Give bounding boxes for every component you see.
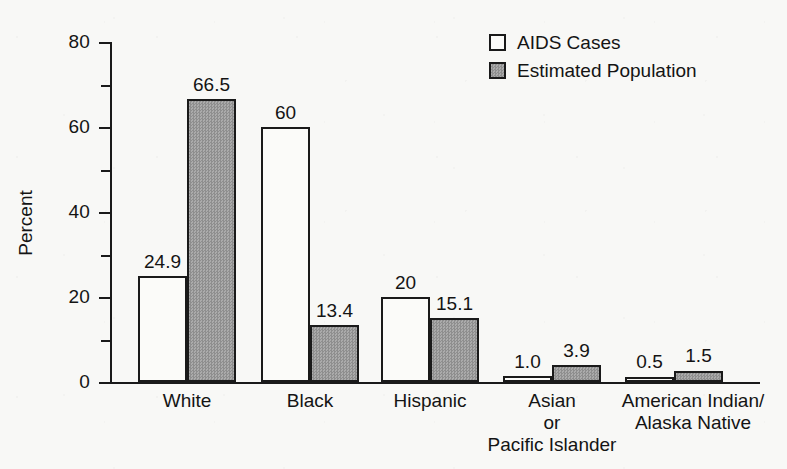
x-axis-label-black: Black — [240, 390, 380, 412]
y-tick-major-60 — [99, 127, 110, 129]
bar-hispanic-estimated-population — [430, 318, 479, 382]
y-tick-minor-50 — [101, 170, 110, 172]
bar-value-american-indian-estimated-population: 1.5 — [667, 346, 730, 365]
legend-label-estimated-population: Estimated Population — [517, 61, 697, 80]
legend-item-estimated-population: Estimated Population — [489, 56, 697, 84]
bar-value-hispanic-estimated-population: 15.1 — [421, 294, 488, 313]
bar-value-black-aids-cases: 60 — [262, 103, 309, 122]
bar-value-asian-estimated-population: 3.9 — [543, 341, 610, 360]
y-tick-major-20 — [99, 297, 110, 299]
bar-white-estimated-population — [187, 99, 236, 382]
y-tick-label-0: 0 — [44, 372, 90, 391]
bar-asian-estimated-population — [552, 365, 601, 382]
legend-label-aids-cases: AIDS Cases — [517, 33, 620, 52]
bar-white-aids-cases — [138, 276, 187, 382]
bar-value-black-estimated-population: 13.4 — [301, 301, 368, 320]
bar-american-indian-estimated-population — [674, 371, 723, 382]
y-tick-minor-70 — [101, 85, 110, 87]
y-tick-major-40 — [99, 212, 110, 214]
bar-asian-aids-cases — [503, 376, 552, 382]
y-tick-major-0 — [99, 382, 110, 384]
x-axis-line — [110, 382, 760, 384]
bar-value-white-aids-cases: 24.9 — [131, 252, 194, 271]
bar-black-aids-cases — [261, 127, 310, 382]
legend-item-aids-cases: AIDS Cases — [489, 28, 697, 56]
y-axis-title: Percent — [15, 178, 37, 268]
chart-page: 80 60 40 20 0 Percent 24.9 66.5 60 13.4 … — [0, 0, 787, 469]
bar-value-white-estimated-population: 66.5 — [178, 75, 245, 94]
x-axis-label-white: White — [117, 390, 257, 412]
x-axis-label-hispanic: Hispanic — [360, 390, 500, 412]
y-tick-label-40: 40 — [44, 202, 90, 221]
bar-value-hispanic-aids-cases: 20 — [382, 273, 429, 292]
x-axis-label-american-indian-alaska-native: American Indian/ Alaska Native — [599, 390, 787, 434]
legend-swatch-filled-icon — [489, 62, 506, 79]
y-tick-major-80 — [99, 42, 110, 44]
y-tick-label-60: 60 — [44, 117, 90, 136]
bar-american-indian-aids-cases — [625, 377, 674, 382]
y-tick-label-20: 20 — [44, 287, 90, 306]
legend-swatch-open-icon — [489, 34, 506, 51]
y-tick-label-80: 80 — [44, 32, 90, 51]
bar-black-estimated-population — [310, 325, 359, 382]
y-tick-minor-30 — [101, 255, 110, 257]
chart-legend: AIDS Cases Estimated Population — [489, 28, 697, 84]
y-tick-minor-10 — [101, 340, 110, 342]
y-axis-line — [110, 42, 112, 384]
